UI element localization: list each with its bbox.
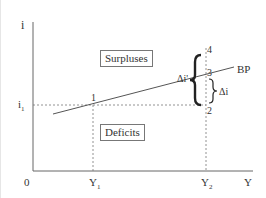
i1-tick-label: i1	[18, 99, 25, 113]
point-1-label: 1	[91, 93, 96, 103]
deficits-region-label: Deficits	[100, 124, 145, 141]
i1-sub: 1	[21, 105, 25, 113]
point-4-label: 4	[207, 45, 212, 55]
delta-i-prime-brace	[190, 55, 201, 105]
y1-base: Y	[89, 176, 97, 188]
delta-i-prime-label: Δi'	[177, 74, 188, 84]
bp-diagram-graphic	[1, 0, 266, 198]
y2-base: Y	[201, 176, 209, 188]
y2-tick-label: Y2	[201, 177, 212, 191]
point-2-label: 2	[207, 106, 212, 116]
y1-sub: 1	[97, 183, 101, 191]
x-axis-label: Y	[244, 177, 252, 188]
delta-i-brace	[209, 79, 217, 103]
y-axis-label: i	[21, 19, 24, 31]
point-3-label: 3	[207, 68, 212, 78]
delta-i-label: Δi	[219, 87, 228, 97]
bp-curve-label: BP	[237, 64, 250, 75]
diagram-frame: i i1 0 Y1 Y2 Y BP Surpluses Deficits 1 2…	[0, 0, 266, 198]
y1-tick-label: Y1	[89, 177, 100, 191]
y2-sub: 2	[209, 183, 213, 191]
origin-label: 0	[24, 177, 30, 188]
surpluses-region-label: Surpluses	[100, 50, 153, 67]
